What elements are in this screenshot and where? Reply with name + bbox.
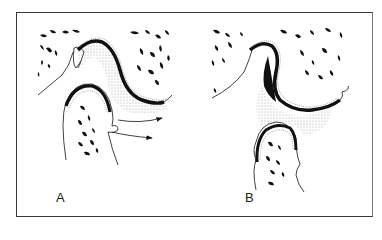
bone-trabeculae-b-left [212,30,243,93]
panel-b [212,28,349,192]
bone-trabeculae-a-right [130,30,170,85]
arrow-upper [118,118,162,122]
panel-label-a: A [56,190,65,205]
panel-a [38,30,172,165]
panel-label-b: B [245,190,254,205]
bone-trabeculae-b-right [280,28,342,79]
arrow-lower [112,132,152,138]
condyle-b [254,122,304,192]
